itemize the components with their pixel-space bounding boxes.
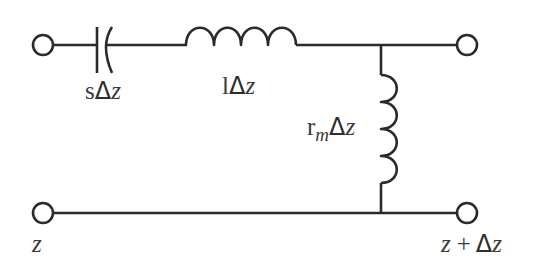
inductor-series — [186, 28, 296, 45]
circuit-diagram: sΔz lΔz rmΔz z z+Δz — [0, 0, 537, 276]
port-label-right: z+Δz — [440, 230, 502, 258]
series-inductor-label: lΔz — [222, 72, 255, 100]
terminal-in-top — [33, 35, 53, 55]
port-label-left: z — [31, 230, 42, 257]
terminal-in-bottom — [33, 203, 53, 223]
capacitor-plate-curved — [106, 27, 112, 73]
terminal-out-bottom — [457, 203, 477, 223]
inductor-shunt — [381, 75, 397, 183]
capacitor-label: sΔz — [85, 77, 121, 105]
terminal-out-top — [457, 35, 477, 55]
capacitor-series — [97, 27, 112, 73]
shunt-inductor-label: rmΔz — [307, 113, 355, 145]
